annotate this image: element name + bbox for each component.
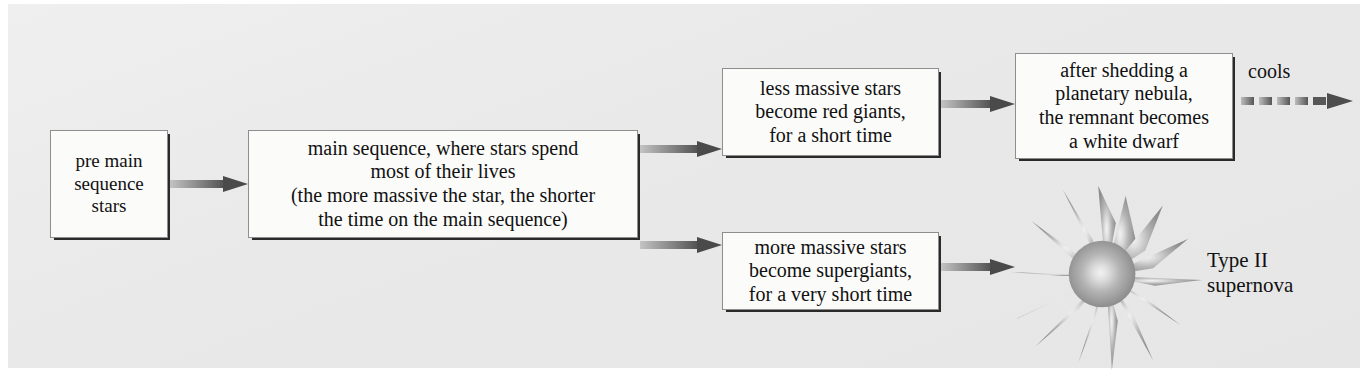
arrow-main-to-red-giants-icon [640,140,722,158]
node-supergiants: more massive stars become supergiants, f… [722,232,939,310]
node-label: pre main sequence stars [68,150,150,217]
node-red-giants: less massive stars become red giants, fo… [722,68,939,156]
arrow-red-giants-to-white-dwarf-icon [941,95,1015,113]
arrow-cools-dashed-icon [1241,91,1353,111]
node-label: main sequence, where stars spend most of… [285,137,601,231]
node-main-sequence: main sequence, where stars spend most of… [248,130,638,238]
label-type-ii-supernova: Type II supernova [1207,248,1293,298]
node-pre-main-sequence-stars: pre main sequence stars [50,130,168,238]
arrow-supergiants-to-supernova-icon [941,258,1015,276]
label-cools: cools [1248,60,1290,83]
arrow-main-to-supergiants-icon [640,236,722,254]
node-label: after shedding a planetary nebula, the r… [1033,59,1215,153]
starburst-icon [1008,178,1204,374]
arrow-pre-to-main-icon [170,175,248,193]
diagram-canvas: pre main sequence stars main sequence, w… [0,0,1366,388]
node-white-dwarf: after shedding a planetary nebula, the r… [1015,53,1233,159]
node-label: less massive stars become red giants, fo… [749,77,912,148]
node-label: more massive stars become supergiants, f… [743,236,918,307]
